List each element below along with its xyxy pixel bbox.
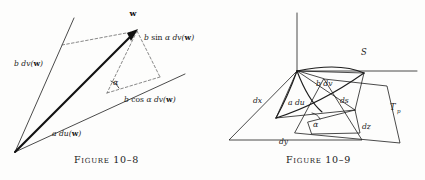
label-surface-S: S	[361, 47, 367, 57]
label-dz: dz	[362, 122, 372, 131]
label-alpha-left: α	[113, 78, 119, 87]
dashed-side-top	[62, 31, 137, 45]
label-b-sin-alpha-dv-w: b sin α dv(w)	[144, 33, 194, 42]
figure-10-9-caption: Figure 10–9	[212, 154, 425, 165]
label-tangent-plane-subscript: p	[397, 108, 401, 115]
figure-sheet: w b dv(w) a du(w) b sin α dv(w) b cos α …	[0, 0, 425, 180]
figure-10-8-caption: Figure 10–8	[0, 154, 213, 165]
label-b-dv-w: b dv(w)	[14, 59, 43, 68]
label-a-du-w: a du(w)	[52, 129, 81, 138]
label-w-point: w	[129, 8, 138, 18]
label-ds: ds	[340, 96, 349, 105]
figure-10-8-drawing: w b dv(w) a du(w) b sin α dv(w) b cos α …	[0, 0, 213, 152]
label-b-cos-alpha-dv-w: b cos α dv(w)	[124, 95, 176, 104]
ray-a-du-direction	[15, 74, 185, 152]
figure-10-9-panel: S b dv a du ds dx dy dz α T p Figure 10–…	[212, 0, 425, 180]
label-alpha-right: α	[313, 120, 319, 129]
label-a-du: a du	[288, 98, 305, 107]
dashed-side-adu	[107, 31, 137, 93]
chord-a-du	[276, 71, 297, 118]
label-dy: dy	[279, 137, 289, 146]
label-dx: dx	[253, 96, 263, 105]
label-tangent-plane: T	[390, 102, 397, 112]
label-b-dv: b dv	[316, 79, 333, 88]
figure-10-9-drawing: S b dv a du ds dx dy dz α T p	[212, 0, 425, 152]
figure-10-8-panel: w b dv(w) a du(w) b sin α dv(w) b cos α …	[0, 0, 213, 180]
